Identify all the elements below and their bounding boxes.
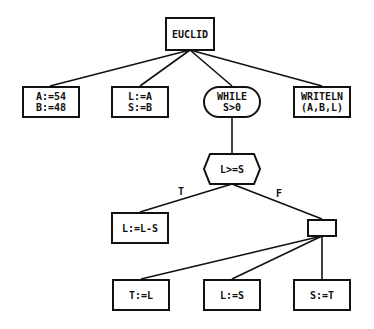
node-init-ab: A:=54 B:=48: [22, 86, 80, 118]
node-label-line-2: S>0: [223, 102, 241, 113]
node-label-line-1: A:=54: [36, 91, 66, 102]
node-subtract: L:=L-S: [111, 212, 169, 244]
node-while-loop: WHILE S>0: [203, 86, 261, 118]
node-label: L:=S: [220, 290, 244, 301]
node-assign-s: S:=T: [293, 279, 351, 311]
edge-cond-sub: [140, 184, 232, 212]
node-label: L>=S: [220, 164, 244, 175]
edge-label-false: F: [276, 188, 282, 199]
node-init-ls: L:=A S:=B: [111, 86, 169, 118]
node-label-line-1: WRITELN: [301, 91, 343, 102]
node-label-line-2: (A,B,L): [301, 102, 343, 113]
node-euclid: EUCLID: [165, 17, 215, 51]
node-label-line-2: S:=B: [128, 102, 152, 113]
node-label-line-1: L:=A: [128, 91, 152, 102]
node-writeln: WRITELN (A,B,L): [293, 86, 351, 118]
edge-euclid-init-ls: [140, 50, 190, 86]
node-label: T:=L: [129, 290, 153, 301]
edge-block-l-s: [232, 236, 322, 279]
node-assign-t: T:=L: [112, 279, 170, 311]
node-assign-l: L:=S: [203, 279, 261, 311]
node-condition-hexagon: L>=S: [203, 153, 261, 185]
node-label-line-2: B:=48: [36, 102, 66, 113]
node-label: L:=L-S: [122, 223, 158, 234]
node-label-line-1: WHILE: [217, 91, 247, 102]
edge-label-true: T: [178, 186, 184, 197]
node-label: S:=T: [310, 290, 334, 301]
node-label: EUCLID: [172, 29, 208, 40]
node-empty-block: [307, 219, 337, 237]
edge-euclid-init-ab: [50, 50, 190, 86]
